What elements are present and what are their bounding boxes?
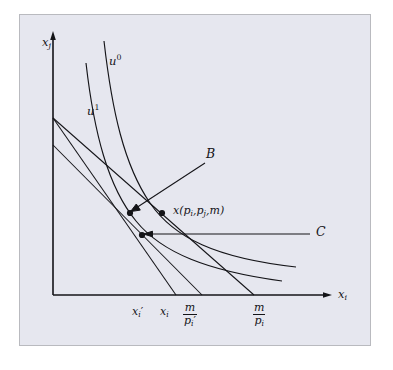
y-axis-label-sub: j xyxy=(49,41,52,50)
curve-label-u0-sup: 0 xyxy=(116,53,121,62)
figure-panel: xj xi u0 u1 B C x(pi,pj,m) xi′ xi mpi′ m… xyxy=(19,14,371,346)
x-tick-label-x-prime-i: xi′ xyxy=(132,306,143,317)
y-axis-label: xj xyxy=(42,37,51,49)
curve-label-u1: u1 xyxy=(87,106,99,118)
point-label-b: B xyxy=(206,148,215,161)
axis-group xyxy=(50,31,332,298)
leader-arrowhead-b xyxy=(131,204,141,212)
demand-price-j-sub: j xyxy=(204,209,206,218)
curve-label-u1-sup: 1 xyxy=(94,103,99,112)
x-tick-3-den-sub: i xyxy=(191,319,193,328)
y-axis-arrowhead xyxy=(50,31,56,40)
x-tick-3-den-base: p xyxy=(184,314,191,327)
x-tick-4-denominator: pi xyxy=(253,315,265,326)
indifference-curve-plot xyxy=(20,15,370,345)
point-label-c: C xyxy=(316,226,326,239)
x-tick-4-den-sub: i xyxy=(262,319,264,328)
x-tick-3-fraction: mpi′ xyxy=(183,302,197,325)
indifference-curve-u1 xyxy=(86,63,282,281)
y-axis-label-base: x xyxy=(42,35,49,49)
x-tick-1-prime: ′ xyxy=(141,305,144,318)
x-tick-label-m-over-p-prime-i: mpi′ xyxy=(183,303,197,326)
leader-line-b xyxy=(136,163,205,208)
x-axis-arrowhead xyxy=(323,292,332,298)
x-tick-label-m-over-p-i: mpi xyxy=(253,303,265,326)
x-tick-4-fraction: mpi xyxy=(253,302,265,325)
point-marker-b xyxy=(127,210,133,216)
demand-close-paren: ) xyxy=(220,204,224,217)
x-axis-label: xi xyxy=(338,289,347,301)
point-marker-demand xyxy=(159,210,165,216)
x-axis-label-base: x xyxy=(338,287,345,301)
demand-price-j: p xyxy=(197,204,204,217)
demand-price-i-sub: i xyxy=(191,209,193,218)
demand-function-label: x(pi,pj,m) xyxy=(173,205,224,216)
curve-label-u0: u0 xyxy=(109,56,121,68)
x-tick-2-sub: i xyxy=(166,310,168,319)
demand-open-paren: x( xyxy=(173,204,184,217)
x-tick-1-sub: i xyxy=(138,310,140,319)
x-tick-4-den-base: p xyxy=(254,314,261,327)
indifference-curve-group xyxy=(86,41,296,281)
figure-root: xj xi u0 u1 B C x(pi,pj,m) xi′ xi mpi′ m… xyxy=(0,0,393,370)
point-marker-c xyxy=(139,232,145,238)
budget-line-compensated xyxy=(53,145,202,295)
x-tick-label-x-i: xi xyxy=(160,306,169,317)
x-tick-3-denominator: pi′ xyxy=(183,315,197,326)
demand-price-i: p xyxy=(184,204,191,217)
demand-income: m xyxy=(209,204,219,217)
annotation-leader-group xyxy=(131,163,311,237)
x-axis-label-sub: i xyxy=(345,293,348,302)
